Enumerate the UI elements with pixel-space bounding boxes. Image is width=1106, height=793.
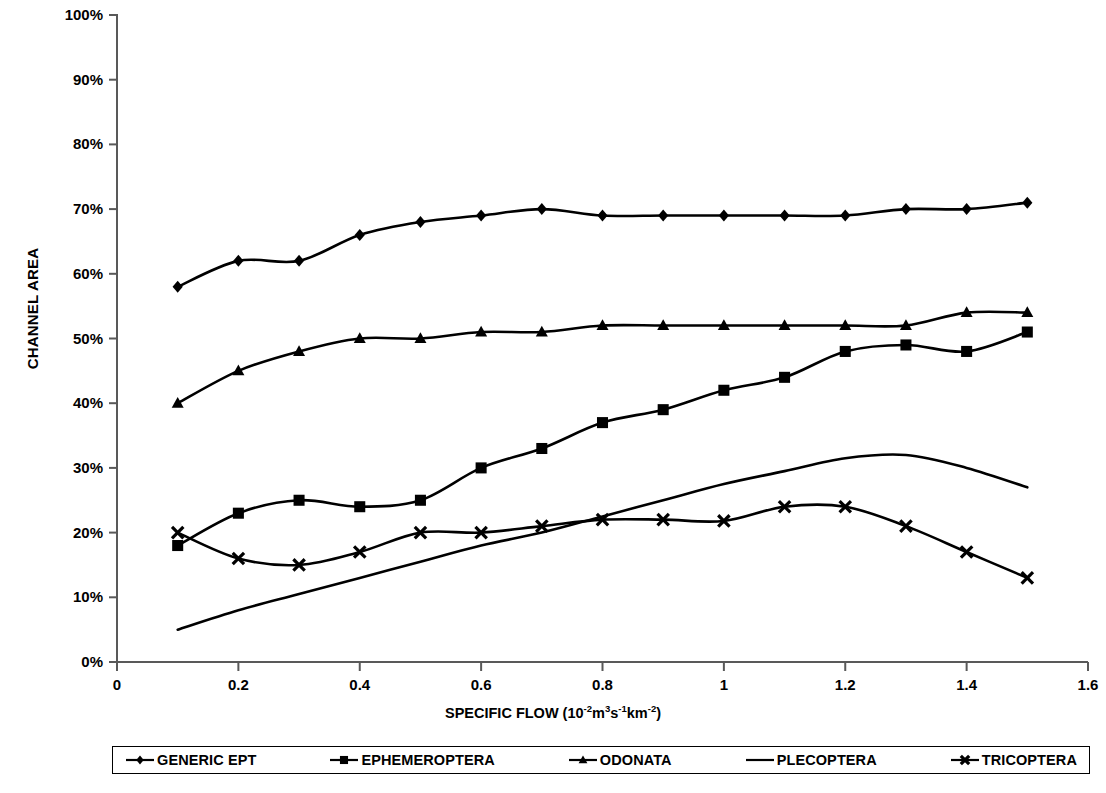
diamond-marker xyxy=(233,255,243,267)
series-line xyxy=(178,332,1028,546)
chart-container: CHANNEL AREA SPECIFIC FLOW (10-2m3s-1km-… xyxy=(0,0,1106,793)
square-marker xyxy=(536,443,547,454)
data-point-diamond xyxy=(658,210,668,222)
y-tick-label: 10% xyxy=(17,589,103,604)
x-tick-label: 1.2 xyxy=(815,677,875,692)
data-point-square xyxy=(536,443,547,454)
legend-marker-x-icon xyxy=(950,753,980,767)
x-axis-title-main: SPECIFIC FLOW (10 xyxy=(445,705,584,721)
data-point-square xyxy=(476,462,487,473)
data-point-square xyxy=(340,756,348,764)
data-point-diamond xyxy=(355,229,365,241)
legend-item-ephemeroptera[interactable]: EPHEMEROPTERA xyxy=(329,752,494,768)
y-tick-label: 70% xyxy=(17,201,103,216)
x-axis-title-sup3: -1 xyxy=(618,703,626,714)
x-axis-title-sup1: -2 xyxy=(584,703,592,714)
x-tick-label: 0.2 xyxy=(208,677,268,692)
data-point-diamond xyxy=(136,756,143,765)
data-point-square xyxy=(172,540,183,551)
diamond-marker xyxy=(901,203,911,215)
legend-label: GENERIC EPT xyxy=(157,752,256,768)
data-point-diamond xyxy=(840,210,850,222)
data-point-square xyxy=(840,346,851,357)
square-marker xyxy=(900,339,911,350)
square-marker xyxy=(840,346,851,357)
y-tick-label: 100% xyxy=(17,7,103,22)
square-marker xyxy=(340,756,348,764)
diamond-marker xyxy=(355,229,365,241)
diamond-marker xyxy=(840,210,850,222)
data-point-x xyxy=(172,527,183,538)
square-marker xyxy=(718,385,729,396)
x-tick-label: 0.4 xyxy=(330,677,390,692)
series-generic-ept xyxy=(173,197,1033,293)
y-tick-label: 40% xyxy=(17,395,103,410)
data-point-diamond xyxy=(779,210,789,222)
data-point-diamond xyxy=(294,255,304,267)
legend-label: PLECOPTERA xyxy=(777,752,877,768)
diamond-marker xyxy=(476,210,486,222)
diamond-marker xyxy=(719,210,729,222)
data-point-diamond xyxy=(1022,197,1032,209)
legend-marker-none-icon xyxy=(745,753,775,767)
data-point-square xyxy=(354,501,365,512)
data-point-x xyxy=(900,520,911,531)
square-marker xyxy=(961,346,972,357)
square-marker xyxy=(476,462,487,473)
legend-label: EPHEMEROPTERA xyxy=(361,752,494,768)
legend-marker-triangle-icon xyxy=(568,753,598,767)
legend-item-odonata[interactable]: ODONATA xyxy=(568,752,672,768)
data-point-x xyxy=(1022,572,1033,583)
legend-item-generic-ept[interactable]: GENERIC EPT xyxy=(125,752,256,768)
legend-label: TRICOPTERA xyxy=(982,752,1077,768)
diamond-marker xyxy=(173,281,183,293)
y-tick-label: 20% xyxy=(17,525,103,540)
series-plecoptera xyxy=(178,454,1028,629)
diamond-marker xyxy=(962,203,972,215)
series-tricoptera xyxy=(172,501,1033,584)
data-point-square xyxy=(415,495,426,506)
diamond-marker xyxy=(537,203,547,215)
data-point-diamond xyxy=(476,210,486,222)
x-tick-label: 0.6 xyxy=(451,677,511,692)
square-marker xyxy=(597,417,608,428)
square-marker xyxy=(172,540,183,551)
data-point-square xyxy=(1022,327,1033,338)
y-tick-label: 30% xyxy=(17,460,103,475)
data-point-square xyxy=(658,404,669,415)
diamond-marker xyxy=(294,255,304,267)
legend-marker-square-icon xyxy=(329,753,359,767)
data-point-x xyxy=(961,546,972,557)
y-tick-label: 50% xyxy=(17,331,103,346)
square-marker xyxy=(415,495,426,506)
legend-item-tricoptera[interactable]: TRICOPTERA xyxy=(950,752,1077,768)
plot-area xyxy=(0,0,1106,793)
square-marker xyxy=(658,404,669,415)
diamond-marker xyxy=(779,210,789,222)
legend-label: ODONATA xyxy=(600,752,672,768)
data-point-diamond xyxy=(719,210,729,222)
data-point-diamond xyxy=(962,203,972,215)
y-tick-label: 80% xyxy=(17,136,103,151)
data-point-square xyxy=(597,417,608,428)
data-point-square xyxy=(779,372,790,383)
data-point-square xyxy=(900,339,911,350)
series-line xyxy=(178,454,1028,629)
square-marker xyxy=(1022,327,1033,338)
diamond-marker xyxy=(415,216,425,228)
data-point-diamond xyxy=(597,210,607,222)
square-marker xyxy=(779,372,790,383)
data-point-diamond xyxy=(901,203,911,215)
y-tick-label: 60% xyxy=(17,266,103,281)
data-point-diamond xyxy=(415,216,425,228)
square-marker xyxy=(233,508,244,519)
legend-item-plecoptera[interactable]: PLECOPTERA xyxy=(745,752,877,768)
data-point-square xyxy=(961,346,972,357)
y-tick-label: 90% xyxy=(17,72,103,87)
chart-legend: GENERIC EPTEPHEMEROPTERAODONATAPLECOPTER… xyxy=(112,746,1090,774)
x-axis-title-tail: ) xyxy=(656,705,661,721)
x-tick-label: 1.6 xyxy=(1058,677,1106,692)
diamond-marker xyxy=(658,210,668,222)
data-point-diamond xyxy=(173,281,183,293)
x-tick-label: 1.4 xyxy=(937,677,997,692)
